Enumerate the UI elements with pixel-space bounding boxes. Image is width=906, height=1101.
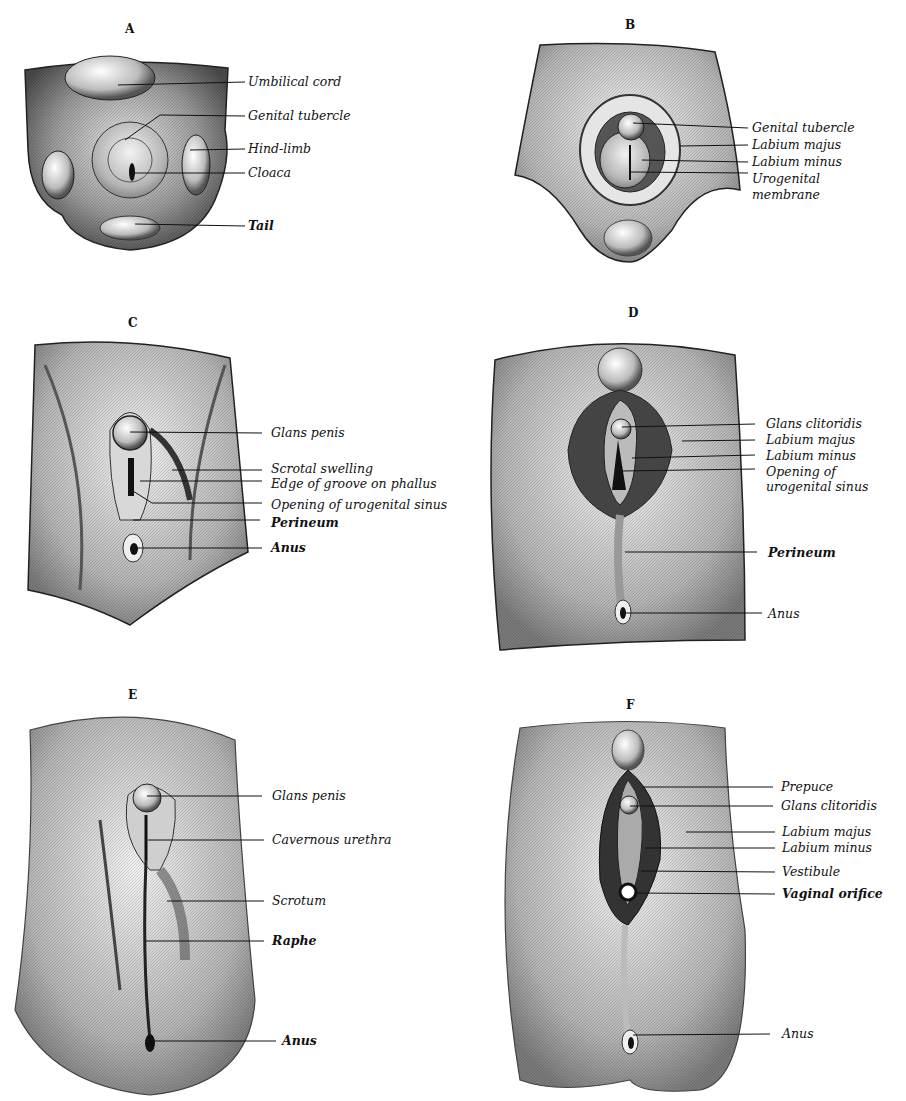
- panel-letter-e: E: [128, 688, 137, 702]
- label-f-glans-clitoridis: Glans clitoridis: [781, 799, 877, 813]
- label-f-labium-majus: Labium majus: [782, 825, 871, 839]
- label-b-genital-tubercle: Genital tubercle: [752, 121, 855, 135]
- label-d-opening-of: Opening of: [766, 465, 836, 479]
- label-c-edge-of-groove: Edge of groove on phallus: [271, 477, 437, 491]
- panel-letter-a: A: [125, 22, 134, 36]
- label-d-labium-minus: Labium minus: [766, 449, 856, 463]
- label-a-genital-tubercle: Genital tubercle: [248, 109, 351, 123]
- panel-b-illustration: [515, 44, 740, 262]
- label-d-anus: Anus: [768, 607, 800, 621]
- label-f-vaginal-orifice: Vaginal orifice: [782, 887, 883, 901]
- label-e-anus: Anus: [282, 1034, 317, 1048]
- label-d-urogenital-sinus: urogenital sinus: [766, 480, 868, 494]
- label-a-tail: Tail: [248, 219, 274, 233]
- panel-letter-b: B: [625, 18, 635, 32]
- label-e-raphe: Raphe: [272, 934, 317, 948]
- label-c-perineum: Perineum: [271, 516, 339, 530]
- label-d-perineum: Perineum: [768, 546, 836, 560]
- panel-c-illustration: [28, 342, 248, 625]
- label-c-opening-urogenital-sinus: Opening of urogenital sinus: [271, 498, 447, 512]
- label-b-urogenital: Urogenital: [752, 172, 820, 186]
- label-a-umbilical-cord: Umbilical cord: [248, 75, 341, 89]
- label-f-labium-minus: Labium minus: [782, 841, 872, 855]
- panel-letter-d: D: [628, 306, 638, 320]
- label-b-membrane: membrane: [752, 188, 820, 202]
- label-a-hind-limb: Hind-limb: [248, 142, 311, 156]
- panel-letter-c: C: [128, 316, 138, 330]
- panel-letter-f: F: [626, 698, 635, 712]
- label-c-scrotal-swelling: Scrotal swelling: [271, 462, 373, 476]
- label-f-vestibule: Vestibule: [782, 865, 840, 879]
- label-b-labium-minus: Labium minus: [752, 155, 842, 169]
- panel-d-illustration: [491, 344, 745, 650]
- label-f-anus: Anus: [782, 1027, 814, 1041]
- label-e-glans-penis: Glans penis: [272, 789, 346, 803]
- label-d-glans-clitoridis: Glans clitoridis: [766, 417, 862, 431]
- label-c-anus: Anus: [271, 541, 306, 555]
- label-b-labium-majus: Labium majus: [752, 138, 841, 152]
- label-e-cavernous-urethra: Cavernous urethra: [272, 833, 391, 847]
- label-f-prepuce: Prepuce: [781, 780, 833, 794]
- label-d-labium-majus: Labium majus: [766, 433, 855, 447]
- panel-f-illustration: [505, 722, 745, 1092]
- label-a-cloaca: Cloaca: [248, 166, 291, 180]
- label-e-scrotum: Scrotum: [272, 894, 326, 908]
- label-c-glans-penis: Glans penis: [271, 426, 345, 440]
- panel-e-illustration: [15, 717, 255, 1095]
